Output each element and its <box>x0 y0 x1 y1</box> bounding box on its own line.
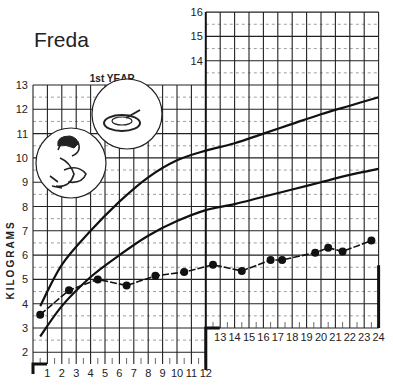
weight-data-point <box>339 247 347 255</box>
x-tick-label: 14 <box>228 331 240 343</box>
y-tick-label: 3 <box>22 322 28 334</box>
x-tick-label: 11 <box>186 367 197 379</box>
weight-data-point <box>324 244 332 252</box>
y-tick-label: 5 <box>22 273 28 285</box>
y-tick-label: 14 <box>191 55 203 67</box>
y-tick-label: 7 <box>22 225 28 237</box>
weight-data-point <box>278 256 286 264</box>
x-tick-label: 7 <box>131 367 137 379</box>
x-tick-label: 12 <box>200 367 212 379</box>
x-tick-label: 16 <box>257 331 269 343</box>
bowl-illustration-circle <box>92 79 162 149</box>
y-tick-label: 16 <box>191 6 203 18</box>
weight-data-point <box>94 275 102 283</box>
weight-data-point <box>180 268 188 276</box>
x-tick-label: 10 <box>171 367 183 379</box>
x-tick-label: 21 <box>329 331 341 343</box>
x-tick-label: 6 <box>116 367 122 379</box>
x-tick-label: 18 <box>286 331 298 343</box>
y-tick-label: 12 <box>16 103 28 115</box>
x-tick-label: 20 <box>315 331 327 343</box>
y-tick-label: 4 <box>22 298 28 310</box>
x-tick-label: 19 <box>300 331 312 343</box>
x-tick-label: 17 <box>272 331 284 343</box>
x-tick-label: 2 <box>59 367 65 379</box>
weight-data-point <box>151 272 159 280</box>
y-tick-label: 9 <box>22 176 28 188</box>
x-tick-label: 8 <box>145 367 151 379</box>
y-tick-label: 15 <box>191 30 203 42</box>
weight-data-point <box>65 286 73 294</box>
weight-data-point <box>311 249 319 257</box>
x-tick-label: 4 <box>88 367 94 379</box>
y-tick-label: 10 <box>16 152 28 164</box>
y-tick-label: 2 <box>22 346 28 358</box>
x-tick-label: 23 <box>358 331 370 343</box>
y-axis-label: KILOGRAMS <box>5 220 16 299</box>
weight-data-point <box>123 281 131 289</box>
x-tick-label: 5 <box>102 367 108 379</box>
y-tick-label: 11 <box>17 128 28 140</box>
weight-data-point <box>367 237 375 245</box>
weight-data-point <box>209 261 217 269</box>
y-tick-label: 13 <box>16 79 28 91</box>
x-tick-label: 3 <box>73 367 79 379</box>
weight-data-point <box>238 267 246 275</box>
weight-data-point <box>36 311 44 319</box>
weight-data-point <box>267 256 275 264</box>
x-tick-label: 15 <box>243 331 255 343</box>
growth-chart: 2345678910111213141516123456789101112131… <box>0 0 393 386</box>
x-tick-label: 1 <box>44 367 50 379</box>
y-tick-label: 8 <box>22 201 28 213</box>
x-tick-label: 9 <box>160 367 166 379</box>
y-tick-label: 6 <box>22 249 28 261</box>
x-tick-label: 13 <box>214 331 226 343</box>
x-tick-label: 24 <box>372 331 384 343</box>
x-tick-label: 22 <box>344 331 356 343</box>
